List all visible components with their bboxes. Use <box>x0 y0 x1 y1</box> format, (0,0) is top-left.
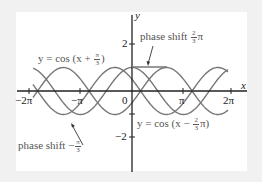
x-axis-label: x <box>241 80 246 91</box>
tick-label-negpi: −π <box>71 95 83 106</box>
fraction: π3 <box>75 139 81 154</box>
y-axis-label: y <box>135 10 140 21</box>
phase-shift-top-label: phase shift 23π <box>140 30 203 45</box>
tick-label-neg2pi: −2π <box>15 95 32 106</box>
phase-shift-bottom-label: phase shift −π3 <box>18 139 82 154</box>
arrow-top <box>148 46 153 64</box>
equation-right: y = cos (x − 23π) <box>137 117 209 132</box>
tick-label-y2: 2 <box>122 38 128 49</box>
fraction: 23 <box>193 117 199 132</box>
tick-label-zero: 0 <box>122 95 128 106</box>
tick-label-pi: π <box>179 95 185 106</box>
arrow-top-head <box>147 61 151 66</box>
fraction: 23 <box>191 30 197 45</box>
tick-label-2pi: 2π <box>223 95 234 106</box>
tick-label-yneg2: −2 <box>115 131 127 142</box>
plot-area <box>0 0 262 182</box>
fraction: π3 <box>94 52 100 67</box>
arrow-bottom-head <box>71 123 75 128</box>
equation-left: y = cos (x + π3) <box>38 52 105 67</box>
